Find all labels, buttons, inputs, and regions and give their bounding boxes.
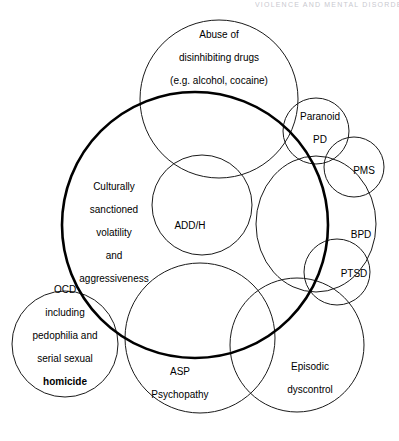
circle-asp-psychopathy[interactable]: [125, 263, 275, 413]
venn-diagram-svg: [0, 0, 399, 441]
diagram-canvas: VIOLENCE AND MENTAL DISORDER Abuse of di…: [0, 0, 399, 441]
circle-bpd[interactable]: [256, 156, 376, 292]
circle-add-h[interactable]: [152, 155, 252, 255]
circle-ptsd[interactable]: [304, 239, 370, 305]
circle-abuse-of-disinhibiting-drugs[interactable]: [140, 20, 298, 178]
circle-ocd[interactable]: [12, 291, 118, 397]
circle-paranoid-pd[interactable]: [283, 98, 349, 164]
circle-pms[interactable]: [324, 137, 384, 197]
circle-culturally-sanctioned[interactable]: [62, 92, 328, 358]
